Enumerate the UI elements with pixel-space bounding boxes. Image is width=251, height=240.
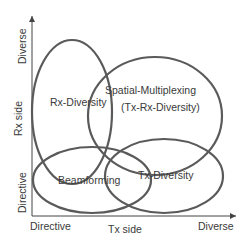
spatial-multiplexing-label: Spatial-Multiplexing xyxy=(105,84,196,96)
y-axis-low-label: Directive xyxy=(16,172,28,213)
y-axis-high-label: Diverse xyxy=(16,28,28,64)
beamforming-label: Beamforming xyxy=(58,174,120,186)
tx-diversity-label: Tx-Diversity xyxy=(138,169,193,181)
diagram-graphics xyxy=(0,0,251,240)
spatial-multiplexing-ellipse xyxy=(88,57,222,175)
y-axis-title: Rx side xyxy=(12,101,24,136)
x-axis-high-label: Diverse xyxy=(198,220,234,232)
spatial-multiplexing-sublabel: (Tx-Rx-Diversity) xyxy=(121,101,200,113)
x-axis-title: Tx side xyxy=(108,223,142,235)
x-axis-low-label: Directive xyxy=(30,220,71,232)
diagram-canvas: Rx-Diversity Spatial-Multiplexing (Tx-Rx… xyxy=(0,0,251,240)
rx-diversity-ellipse xyxy=(32,40,112,184)
rx-diversity-label: Rx-Diversity xyxy=(50,96,107,108)
